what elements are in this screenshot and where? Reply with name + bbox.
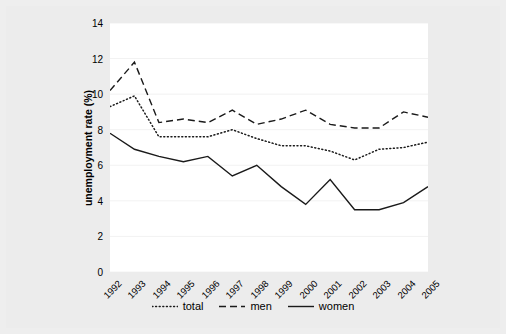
x-tick-label: 2002 (346, 278, 369, 301)
x-tick-label: 1993 (126, 278, 149, 301)
x-tick-label: 1994 (150, 278, 173, 301)
gridlines (110, 23, 428, 272)
figure-background: unemployment rate (%) 02468101214 199219… (6, 6, 500, 328)
y-tick-label: 4 (97, 195, 103, 206)
series-line-men (110, 62, 428, 128)
y-tick-label: 6 (97, 160, 103, 171)
y-tick-label: 12 (92, 53, 103, 64)
legend-item-women[interactable]: women (288, 300, 354, 312)
x-tick-label: 2004 (395, 278, 418, 301)
x-tick-label: 1999 (272, 278, 295, 301)
legend-item-men[interactable]: men (219, 300, 271, 312)
y-tick-label: 2 (97, 231, 103, 242)
legend-label: men (250, 300, 271, 312)
series-lines (110, 62, 428, 210)
series-line-women (110, 133, 428, 209)
legend-swatch-women (288, 302, 314, 311)
legend-label: women (319, 300, 354, 312)
y-tick-label: 14 (92, 18, 103, 29)
x-tick-label: 2003 (370, 278, 393, 301)
chart-legend: totalmenwomen (6, 300, 500, 312)
y-tick-label: 0 (97, 267, 103, 278)
y-tick-label: 8 (97, 124, 103, 135)
chart-figure: unemployment rate (%) 02468101214 199219… (0, 0, 506, 334)
chart-plot-svg (110, 23, 428, 272)
x-tick-label: 2001 (321, 278, 344, 301)
y-axis-title: unemployment rate (%) (82, 48, 94, 248)
x-tick-label: 1998 (248, 278, 271, 301)
x-tick-label: 2000 (297, 278, 320, 301)
x-tick-label: 1996 (199, 278, 222, 301)
legend-swatch-total (152, 302, 178, 311)
x-tick-label: 2005 (419, 278, 442, 301)
y-tick-label: 10 (92, 89, 103, 100)
series-line-total (110, 96, 428, 160)
plot-area: unemployment rate (%) 02468101214 199219… (110, 23, 428, 272)
x-tick-label: 1997 (223, 278, 246, 301)
x-tick-label: 1992 (101, 278, 124, 301)
legend-swatch-men (219, 302, 245, 311)
x-tick-label: 1995 (174, 278, 197, 301)
legend-label: total (183, 300, 204, 312)
legend-item-total[interactable]: total (152, 300, 204, 312)
